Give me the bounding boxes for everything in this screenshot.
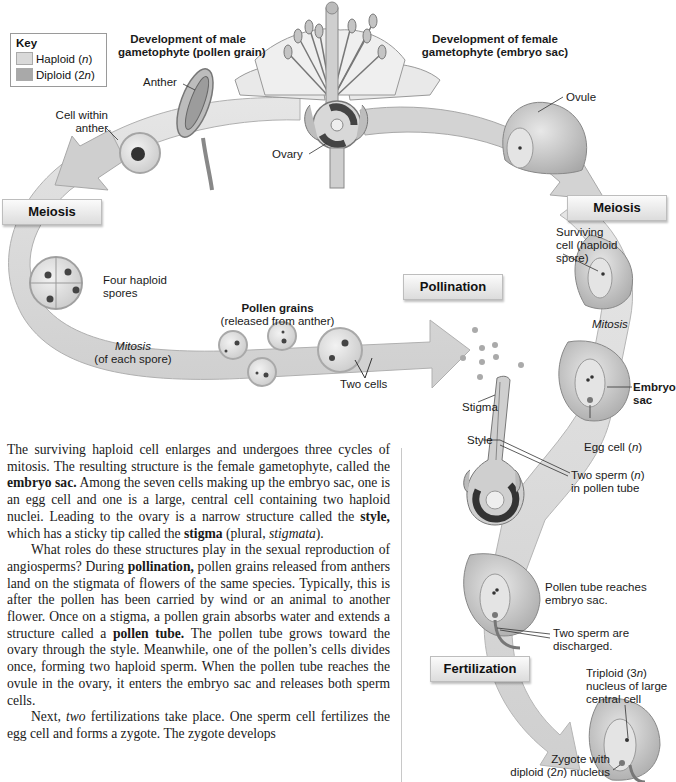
cell-within-anther [120, 133, 160, 173]
label-stigma: Stigma [462, 401, 498, 414]
label-cell-within-anther: Cell within anther [48, 109, 108, 135]
paragraph-2: What roles do these structures play in t… [7, 542, 390, 709]
pistil-illustration [464, 376, 524, 525]
label-embryo-sac: Embryo sac [633, 381, 676, 407]
label-four-haploid-spores: Four haploid spores [103, 274, 167, 300]
label-mitosis-spore: Mitosis (of each spore) [88, 340, 178, 366]
diploid-swatch [16, 68, 33, 81]
stage-pollination: Pollination [403, 274, 503, 300]
label-sperm-discharged: Two sperm are discharged. [553, 627, 629, 653]
flower-illustration [235, 2, 440, 188]
four-haploid-spores [30, 257, 82, 309]
pollen-scatter [460, 327, 524, 380]
stage-fertilization: Fertilization [430, 656, 530, 682]
legend-key: Key Haploid (n) Diploid (2n) [10, 33, 107, 87]
label-anther: Anther [143, 76, 177, 89]
label-zygote: Zygote with diploid (2n) nucleus [500, 753, 610, 779]
label-ovary: Ovary [272, 148, 303, 161]
label-triploid-nucleus: Triploid (3n) nucleus of large central c… [586, 667, 667, 706]
haploid-swatch [16, 52, 33, 65]
stage-meiosis-female: Meiosis [567, 195, 667, 221]
paragraph-3: Next, two fertilizations take place. One… [7, 709, 390, 742]
pollen-tube-ovule [464, 554, 540, 648]
label-style: Style [467, 434, 493, 447]
label-two-sperm-pollen-tube: Two sperm (n) in pollen tube [571, 469, 645, 495]
label-pollen-tube-reaches: Pollen tube reaches embryo sac. [545, 581, 647, 607]
body-text: The surviving haploid cell enlarges and … [7, 442, 390, 743]
legend-title: Key [16, 37, 37, 49]
label-surviving-cell: Surviving cell (haploid spore) [556, 226, 617, 265]
female-gametophyte-heading: Development of female gametophyte (embry… [420, 33, 570, 59]
stage-meiosis-male: Meiosis [2, 199, 102, 225]
label-ovule: Ovule [566, 91, 596, 104]
label-pollen-grains: Pollen grains (released from anther) [215, 302, 340, 328]
label-mitosis-female: Mitosis [592, 318, 628, 331]
label-two-cells: Two cells [340, 378, 387, 391]
legend-item-diploid: Diploid (2n) [16, 68, 95, 81]
label-egg-cell: Egg cell (n) [584, 441, 642, 454]
male-gametophyte-heading: Development of male gametophyte (pollen … [118, 33, 258, 59]
legend-item-haploid: Haploid (n) [16, 52, 92, 65]
ovule-illustration [503, 102, 587, 174]
column-divider [401, 448, 402, 782]
paragraph-1: The surviving haploid cell enlarges and … [7, 442, 390, 542]
